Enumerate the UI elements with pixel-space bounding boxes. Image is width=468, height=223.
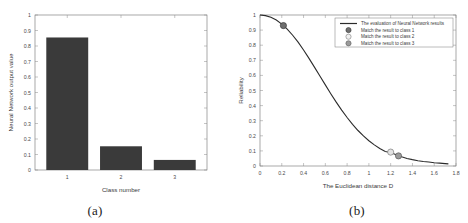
y-tick-label: 0.2	[24, 136, 31, 142]
legend-label: Match the result to class 3	[361, 41, 415, 46]
legend-label: Match the result to class 2	[361, 34, 415, 39]
y-tick-label: 0.5	[24, 90, 31, 96]
line-chart-reliability-vs-euclidean-distance: 00.10.20.30.40.50.60.70.80.9100.20.40.60…	[234, 0, 468, 196]
y-tick-label: 0	[28, 167, 31, 173]
x-tick-label: 2	[120, 174, 123, 180]
y-axis-title: Neural Network output value	[7, 53, 14, 132]
x-tick-label: 0.6	[322, 170, 329, 176]
y-tick-label: 0	[253, 163, 256, 169]
legend-circle-swatch	[346, 41, 351, 46]
bar	[154, 160, 196, 170]
caption-a: (a)	[0, 203, 212, 219]
figure-root: 00.10.20.30.40.50.60.70.80.91123Class nu…	[0, 0, 468, 223]
y-tick-label: 0.6	[249, 72, 256, 78]
chart-panel-b: 00.10.20.30.40.50.60.70.80.9100.20.40.60…	[234, 0, 468, 223]
caption-b: (b)	[240, 203, 468, 219]
y-tick-label: 0.7	[24, 59, 31, 65]
bar	[100, 146, 142, 170]
y-tick-label: 0.1	[249, 148, 256, 154]
x-tick-label: 1	[367, 170, 370, 176]
y-tick-label: 0.7	[249, 57, 256, 63]
x-tick-label: 1.4	[409, 170, 416, 176]
y-axis-title: Reliability	[237, 76, 244, 103]
y-tick-label: 1	[253, 12, 256, 18]
y-tick-label: 0.8	[24, 43, 31, 49]
data-point-marker	[388, 149, 394, 155]
legend-label: Match the result to class 1	[361, 28, 415, 33]
y-tick-label: 0.8	[249, 42, 256, 48]
chart-legend: The evaluation of Neural Network results…	[335, 18, 453, 47]
x-tick-label: 1.6	[431, 170, 438, 176]
y-tick-label: 0.6	[24, 74, 31, 80]
x-tick-label: 3	[173, 174, 176, 180]
y-tick-label: 0.9	[24, 28, 31, 34]
y-tick-label: 0.2	[249, 133, 256, 139]
data-point-marker	[280, 22, 286, 28]
x-axis-title: The Euclidean distance D	[323, 182, 394, 189]
y-tick-label: 0.3	[24, 121, 31, 127]
legend-circle-swatch	[346, 34, 351, 39]
y-tick-label: 0.9	[249, 27, 256, 33]
y-tick-label: 0.1	[24, 152, 31, 158]
y-tick-label: 0.3	[249, 118, 256, 124]
x-tick-label: 1	[66, 174, 69, 180]
x-tick-label: 0.4	[300, 170, 307, 176]
legend-circle-swatch	[346, 28, 351, 33]
bar-chart-neural-network-output: 00.10.20.30.40.50.60.70.80.91123Class nu…	[0, 0, 234, 196]
x-tick-label: 1.8	[452, 170, 459, 176]
x-tick-label: 1.2	[387, 170, 394, 176]
y-tick-label: 0.4	[249, 103, 256, 109]
x-tick-label: 0	[259, 170, 262, 176]
y-tick-label: 1	[28, 12, 31, 18]
x-tick-label: 0.2	[278, 170, 285, 176]
y-tick-label: 0.4	[24, 105, 31, 111]
x-tick-label: 0.8	[344, 170, 351, 176]
x-axis-title: Class number	[102, 186, 140, 193]
chart-panel-a: 00.10.20.30.40.50.60.70.80.91123Class nu…	[0, 0, 234, 223]
legend-label: The evaluation of Neural Network results	[361, 21, 445, 26]
bar	[46, 37, 88, 170]
y-tick-label: 0.5	[249, 88, 256, 94]
data-point-marker	[395, 153, 401, 159]
